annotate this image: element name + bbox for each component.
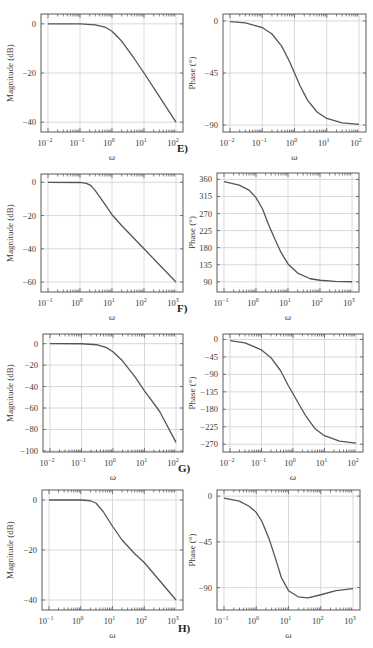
figure-label-G: G) — [178, 462, 190, 474]
y-tick-label: 0 — [208, 491, 212, 501]
x-tick-label: 100 — [248, 615, 260, 626]
x-tick-label: 102 — [136, 615, 148, 626]
y-tick-label: −20 — [23, 211, 36, 221]
y-tick-label: −40 — [23, 244, 36, 254]
grid-lines — [42, 490, 183, 610]
x-tick-label: 103 — [344, 615, 356, 626]
x-tick-label: 101 — [279, 297, 291, 308]
H-magnitude-svg: 0−20−4010−1100101102103ωMagnitude (dB) — [0, 480, 186, 648]
x-axis-label: ω — [109, 312, 115, 320]
x-tick-label: 101 — [103, 297, 115, 308]
E-phase-svg: 0−45−9010−210−1100101102ωPhase (°) — [186, 0, 373, 160]
y-tick-label: −90 — [199, 583, 212, 593]
grid-lines — [217, 490, 360, 610]
x-tick-label: 102 — [347, 457, 359, 468]
x-tick-label: 10−1 — [252, 137, 267, 148]
y-tick-label: −225 — [200, 422, 218, 432]
x-tick-label: 100 — [103, 137, 115, 148]
x-tick-label: 100 — [247, 297, 259, 308]
y-axis-label: Phase (°) — [187, 377, 197, 410]
x-tick-label: 10−1 — [214, 615, 229, 626]
x-tick-label: 10−2 — [38, 137, 53, 148]
y-tick-label: 135 — [199, 260, 212, 270]
y-tick-label: −90 — [205, 120, 218, 130]
y-tick-label: −180 — [200, 404, 218, 414]
x-tick-label: 10−1 — [38, 297, 53, 308]
x-axis-label: ω — [290, 472, 296, 480]
y-tick-label: −100 — [20, 446, 38, 456]
y-tick-label: 360 — [199, 174, 212, 184]
y-tick-label: 0 — [32, 177, 36, 187]
x-tick-label: 101 — [104, 615, 116, 626]
y-tick-label: −20 — [24, 545, 37, 555]
plot-F-phase: 3603152702251801359010−1100101102103ωPha… — [186, 160, 373, 320]
y-axis-label: Magnitude (dB) — [5, 364, 15, 422]
x-tick-label: 102 — [311, 297, 323, 308]
y-tick-label: −45 — [205, 352, 218, 362]
G-phase-svg: 0−45−90−135−180−225−27010−210−1100101102… — [186, 320, 373, 480]
y-tick-label: −135 — [200, 387, 218, 397]
x-tick-label: 10−1 — [39, 615, 54, 626]
x-axis-label: ω — [110, 472, 116, 480]
y-tick-label: 90 — [204, 277, 213, 287]
x-tick-label: 100 — [286, 137, 298, 148]
x-tick-label: 10−2 — [40, 457, 55, 468]
grid-lines — [217, 173, 359, 292]
y-tick-label: 0 — [34, 339, 38, 349]
plot-G-phase: 0−45−90−135−180−225−27010−210−1100101102… — [186, 320, 373, 480]
y-tick-label: −20 — [25, 360, 38, 370]
E-magnitude-svg: 0−20−4010−210−1100101102ωMagnitude (dB) — [0, 0, 186, 160]
y-tick-label: −45 — [205, 68, 218, 78]
H-phase-svg: 0−45−9010−1100101102103ωPhase (°) — [186, 480, 373, 648]
grid-lines — [41, 174, 183, 292]
plot-G-magnitude: 0−20−40−60−80−10010−210−1100101102ωMagni… — [0, 320, 186, 480]
y-tick-label: −80 — [25, 424, 38, 434]
y-axis-label: Phase (°) — [187, 216, 197, 249]
y-tick-label: −60 — [23, 277, 36, 287]
y-tick-label: 225 — [199, 226, 212, 236]
y-tick-label: −40 — [25, 382, 38, 392]
x-tick-label: 100 — [71, 297, 83, 308]
y-tick-label: −40 — [24, 595, 37, 605]
x-tick-label: 102 — [350, 137, 362, 148]
plot-H-magnitude: 0−20−4010−1100101102103ωMagnitude (dB) — [0, 480, 186, 648]
plot-E-phase: 0−45−9010−210−1100101102ωPhase (°) — [186, 0, 373, 160]
x-tick-label: 103 — [343, 297, 355, 308]
x-axis-label: ω — [109, 152, 115, 160]
x-tick-label: 100 — [284, 457, 296, 468]
y-axis-label: Magnitude (dB) — [5, 204, 15, 262]
x-tick-label: 101 — [136, 457, 148, 468]
y-tick-label: 0 — [214, 334, 218, 344]
x-tick-label: 10−1 — [214, 297, 229, 308]
x-tick-label: 10−2 — [220, 137, 235, 148]
y-tick-label: −270 — [200, 439, 218, 449]
y-tick-label: 0 — [214, 16, 218, 26]
y-tick-label: 0 — [32, 19, 36, 29]
figure-label-E: E) — [177, 142, 188, 154]
x-tick-label: 101 — [318, 137, 330, 148]
y-tick-label: −20 — [23, 68, 36, 78]
F-phase-svg: 3603152702251801359010−1100101102103ωPha… — [186, 160, 373, 320]
y-tick-label: −45 — [199, 537, 212, 547]
F-magnitude-svg: 0−20−40−6010−1100101102103ωMagnitude (dB… — [0, 160, 186, 320]
y-axis-label: Phase (°) — [187, 534, 197, 567]
y-tick-label: −90 — [205, 369, 218, 379]
x-axis-label: ω — [109, 630, 115, 640]
x-tick-label: 10−1 — [251, 457, 266, 468]
y-tick-label: 180 — [199, 243, 212, 253]
x-tick-label: 10−1 — [70, 137, 85, 148]
y-axis-label: Magnitude (dB) — [5, 521, 15, 579]
x-axis-label: ω — [285, 630, 291, 640]
y-tick-label: 0 — [33, 495, 37, 505]
figure-label-H: H) — [178, 622, 190, 634]
y-tick-label: 315 — [199, 191, 212, 201]
y-axis-label: Magnitude (dB) — [5, 44, 15, 102]
x-tick-label: 101 — [135, 137, 147, 148]
x-tick-label: 100 — [72, 615, 84, 626]
y-tick-label: 270 — [199, 209, 212, 219]
y-tick-label: −40 — [23, 117, 36, 127]
figure-label-F: F) — [177, 302, 187, 314]
plot-E-magnitude: 0−20−4010−210−1100101102ωMagnitude (dB) — [0, 0, 186, 160]
x-tick-label: 10−1 — [71, 457, 86, 468]
G-magnitude-svg: 0−20−40−60−80−10010−210−1100101102ωMagni… — [0, 320, 186, 480]
